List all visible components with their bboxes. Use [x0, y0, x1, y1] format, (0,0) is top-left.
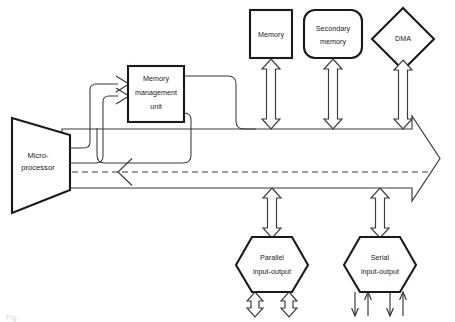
parallel-io-label-line2: input-output: [253, 267, 291, 276]
memory-bus-link: [262, 59, 280, 129]
secondary-memory-shape[interactable]: [304, 10, 362, 58]
serial-io-bus-link: [371, 188, 389, 238]
mmu-node[interactable]: Memory management unit: [128, 66, 184, 122]
microprocessor-node[interactable]: Micro- processor: [12, 118, 70, 213]
secondary-memory-bus-link: [324, 59, 342, 129]
parallel-io-label-line1: Parallel: [260, 253, 284, 262]
dma-bus-arrow: [394, 60, 412, 129]
secondary-memory-label-line2: memory: [320, 37, 346, 46]
mmu-label-line1: Memory: [143, 74, 169, 83]
secondary-memory-node[interactable]: Secondary memory: [304, 10, 362, 58]
figure-caption: Fig.: [6, 314, 19, 321]
memory-label: Memory: [258, 30, 284, 39]
microprocessor-label-line1: Micro-: [27, 151, 49, 160]
mmu-to-bus-upper: [184, 76, 256, 129]
parallel-io-port-right: [281, 292, 297, 317]
microprocessor-label-line2: processor: [21, 163, 55, 172]
parallel-io-shape[interactable]: [236, 237, 308, 292]
memory-node[interactable]: Memory: [250, 10, 292, 58]
serial-io-node[interactable]: Serial input-output: [344, 237, 416, 292]
parallel-io-port-right-arrow: [281, 292, 297, 317]
parallel-io-node[interactable]: Parallel input-output: [236, 237, 308, 292]
serial-io-bus-arrow: [371, 188, 389, 238]
dma-bus-link: [394, 60, 412, 129]
parallel-io-port-left-arrow: [247, 292, 263, 317]
mmu-label-line2: management: [135, 88, 177, 97]
dma-label: DMA: [395, 34, 411, 43]
parallel-io-bus-arrow: [263, 188, 281, 238]
parallel-io-port-left: [247, 292, 263, 317]
serial-io-lines: [352, 292, 407, 316]
secondary-memory-label-line1: Secondary: [316, 24, 351, 33]
mmu-label-line3: unit: [150, 102, 162, 111]
serial-io-shape[interactable]: [344, 237, 416, 292]
parallel-io-bus-link: [263, 188, 281, 238]
memory-bus-arrow: [262, 59, 280, 129]
mmu-to-bus-upper-path: [184, 76, 256, 129]
secondary-memory-bus-arrow: [324, 59, 342, 129]
diagram-canvas: Micro- processor Memory management unit: [0, 0, 455, 322]
serial-io-label-line2: input-output: [361, 267, 399, 276]
serial-io-label-line1: Serial: [371, 253, 390, 262]
system-block-diagram: Micro- processor Memory management unit: [0, 0, 455, 322]
